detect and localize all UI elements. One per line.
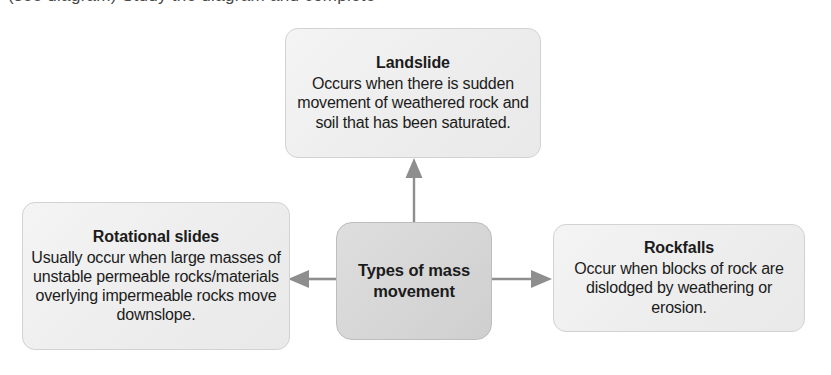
node-rockfalls-title: Rockfalls: [644, 239, 714, 258]
node-rotational-slides[interactable]: Rotational slides Usually occur when lar…: [22, 202, 290, 350]
node-landslide[interactable]: Landslide Occurs when there is sudden mo…: [285, 28, 541, 158]
node-rotational-slides-body: Usually occur when large masses of unsta…: [23, 248, 289, 325]
node-rockfalls[interactable]: Rockfalls Occur when blocks of rock are …: [553, 224, 805, 332]
arrow-up: [406, 158, 423, 222]
node-center-title-line1: Types of mass: [358, 260, 470, 281]
node-landslide-body: Occurs when there is sudden movement of …: [286, 74, 540, 132]
node-center-title-line2: movement: [373, 281, 455, 302]
arrow-right: [492, 270, 552, 288]
node-landslide-title: Landslide: [376, 54, 450, 73]
node-types-of-mass-movement[interactable]: Types of mass movement: [336, 222, 492, 340]
diagram-canvas: (see diagram) Study the diagram and comp…: [0, 0, 831, 375]
node-rotational-slides-title: Rotational slides: [93, 228, 219, 247]
arrow-left: [288, 270, 336, 288]
node-rockfalls-body: Occur when blocks of rock are dislodged …: [554, 259, 804, 317]
